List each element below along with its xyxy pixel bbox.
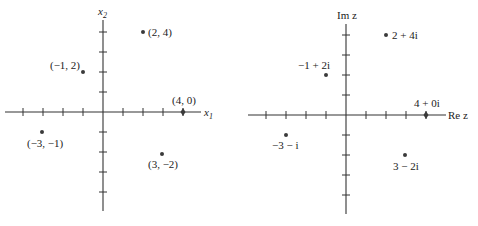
- imaginary-axis-label: Im z: [337, 9, 357, 21]
- point-3-neg2: [160, 152, 164, 156]
- label-neg3-neg1: (−3, −1): [27, 137, 64, 150]
- label-2-4: (2, 4): [148, 26, 172, 39]
- label-neg1-plus-2i: −1 + 2i: [298, 59, 330, 71]
- label-2-plus-4i: 2 + 4i: [392, 29, 418, 41]
- label-neg1-2: (−1, 2): [50, 59, 80, 72]
- point-neg3-minus-i: [284, 133, 288, 137]
- label-4-0: (4, 0): [172, 94, 196, 107]
- point-2-4: [141, 30, 145, 34]
- label-3-minus-2i: 3 − 2i: [393, 160, 419, 172]
- point-3-minus-2i: [403, 153, 407, 157]
- left-plane: x1 x2 (2, 4) (−1, 2) (4, 0) (−3, −1) (3,…: [5, 5, 213, 211]
- x2-axis-label: x2: [97, 5, 107, 20]
- point-neg1-2: [81, 70, 85, 74]
- label-3-neg2: (3, −2): [148, 158, 178, 171]
- point-2-plus-4i: [384, 33, 388, 37]
- diagram-canvas: x1 x2 (2, 4) (−1, 2) (4, 0) (−3, −1) (3,…: [0, 0, 478, 226]
- point-neg1-plus-2i: [324, 73, 328, 77]
- real-axis-label: Re z: [448, 109, 468, 121]
- label-4-plus-0i: 4 + 0i: [414, 97, 440, 109]
- complex-plane: Re z Im z 2 + 4i −1 + 2i 4 + 0i −3 − i 3…: [248, 9, 468, 214]
- point-4-plus-0i: [424, 111, 429, 119]
- point-4-0: [181, 108, 186, 116]
- x1-axis-label: x1: [203, 106, 213, 121]
- label-neg3-minus-i: −3 − i: [272, 139, 298, 151]
- point-neg3-neg1: [40, 130, 44, 134]
